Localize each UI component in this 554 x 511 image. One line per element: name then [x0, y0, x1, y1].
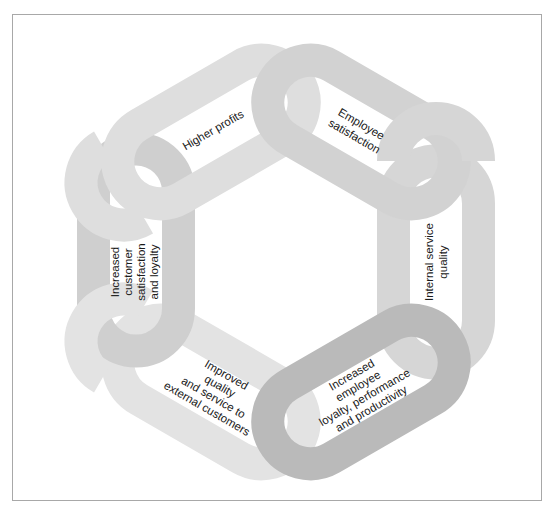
- label-increased-customer-satisfaction: Increased customer satisfaction and loya…: [109, 243, 160, 301]
- svg-text:quality: quality: [437, 245, 449, 278]
- svg-text:Higher profits: Higher profits: [180, 108, 245, 153]
- svg-text:and loyalty: and loyalty: [148, 244, 160, 299]
- label-higher-profits: Higher profits: [180, 108, 245, 153]
- svg-text:Increased: Increased: [109, 247, 121, 298]
- svg-text:Internal service: Internal service: [423, 223, 435, 301]
- chain-diagram: Higher profits Employee satisfaction Int…: [0, 0, 554, 511]
- svg-text:customer: customer: [122, 248, 134, 295]
- svg-text:satisfaction: satisfaction: [135, 243, 147, 301]
- label-internal-service-quality: Internal service quality: [423, 223, 449, 301]
